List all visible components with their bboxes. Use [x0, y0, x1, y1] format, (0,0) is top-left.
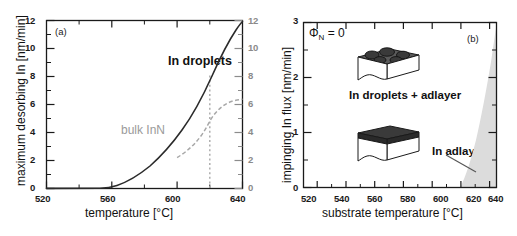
- figure-container: maximum desorbing In [nm/min] 0 2 4 6 8 …: [0, 0, 517, 236]
- panel-b-ylabel: impinging In flux [nm/min]: [280, 47, 294, 183]
- panel-b-ytick-1: 1: [293, 126, 298, 137]
- panel-a-ytick-right-10: 10: [248, 42, 258, 53]
- panel-a-xtick-520: 520: [35, 193, 50, 204]
- panel-a-ytick-2: 2: [30, 154, 35, 165]
- panel-a-ytick-6: 6: [30, 98, 35, 109]
- panel-a-curve-in-droplets: [47, 157, 179, 189]
- panel-a-curve-bulk-inn: [177, 99, 242, 157]
- panel-b-xtick-560: 560: [367, 193, 382, 204]
- panel-a-ytick-8: 8: [30, 70, 35, 81]
- panel-a-main-curve: [47, 22, 243, 189]
- panel-b-leader-line: [446, 155, 476, 172]
- panel-a-ytick-right-6: 6: [248, 98, 253, 109]
- panel-b-xtick-600: 600: [433, 193, 448, 204]
- panel-b-label-adlayer: In adlayer: [432, 145, 486, 157]
- panel-b-tag: (b): [467, 33, 479, 44]
- panel-a-curve-in-droplets-main: [47, 155, 178, 188]
- panel-b-phi-annotation: ΦN = 0: [309, 26, 345, 42]
- panel-b-ytick-3: 3: [293, 15, 298, 26]
- panel-a-ytick-right-12: 12: [248, 15, 258, 26]
- panel-a-ytick-right-8: 8: [248, 70, 253, 81]
- panel-a-tag: (a): [55, 26, 67, 37]
- panel-b: impinging In flux [nm/min] 0 1 2 3 520 5…: [260, 0, 517, 236]
- panel-a-ytick-0: 0: [30, 182, 35, 193]
- panel-b-ytick-0: 0: [293, 182, 298, 193]
- panel-a-xtick-640: 640: [230, 193, 245, 204]
- panel-a-ytick-12: 12: [25, 15, 35, 26]
- panel-a-ytick-10: 10: [25, 42, 35, 53]
- panel-b-label-droplets-adlayer: In droplets + adlayer: [349, 89, 461, 101]
- panel-a-ytick-right-4: 4: [248, 126, 253, 137]
- panel-a-label-in-droplets: In droplets: [168, 54, 232, 68]
- panel-b-xtick-620: 620: [466, 193, 481, 204]
- panel-b-xtick-540: 540: [334, 193, 349, 204]
- panel-a-ytick-right-2: 2: [248, 154, 253, 165]
- panel-b-xtick-580: 580: [400, 193, 415, 204]
- panel-a-xtick-600: 600: [165, 193, 180, 204]
- phi-value: = 0: [328, 26, 345, 40]
- panel-b-shaded-region: [460, 22, 497, 188]
- panel-b-xtick-640: 640: [488, 193, 503, 204]
- panel-a-ytick-4: 4: [30, 126, 35, 137]
- phi-symbol: Φ: [309, 26, 319, 40]
- phi-subscript: N: [319, 33, 325, 42]
- panel-a: maximum desorbing In [nm/min] 0 2 4 6 8 …: [0, 0, 260, 236]
- droplets-adlayer-illustration: [358, 48, 419, 80]
- adlayer-illustration: [358, 126, 419, 161]
- panel-b-ytick-2: 2: [293, 71, 298, 82]
- panel-a-label-bulk-inn: bulk InN: [121, 123, 165, 137]
- panel-b-xlabel: substrate temperature [°C]: [322, 206, 463, 220]
- panel-a-ytick-right-0: 0: [248, 182, 253, 193]
- panel-a-ylabel-left: maximum desorbing In [nm/min]: [14, 15, 28, 186]
- panel-a-series-in-droplets: [47, 21, 210, 189]
- panel-b-xtick-520: 520: [301, 193, 316, 204]
- panel-a-xtick-560: 560: [100, 193, 115, 204]
- panel-a-xlabel: temperature [°C]: [85, 206, 173, 220]
